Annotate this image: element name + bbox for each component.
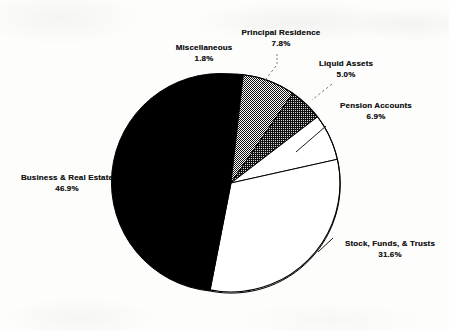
leader-line-liquid-assets (312, 84, 332, 100)
slice-label-business-real-estate: Business & Real Estate 46.9% (12, 172, 122, 194)
slice-label-principal-residence: Principal Residence 7.8% (228, 27, 334, 49)
pie-slices (111, 73, 340, 293)
slice-label-miscellaneous-percent: 1.8% (158, 53, 250, 64)
slice-label-stock-funds-trusts-name: Stock, Funds, & Trusts (345, 239, 435, 248)
slice-label-liquid-assets-percent: 5.0% (300, 69, 392, 80)
pie-slice-business-real-estate[interactable] (111, 73, 231, 291)
slice-label-business-real-estate-percent: 46.9% (12, 183, 122, 194)
slice-label-principal-residence-name: Principal Residence (242, 28, 321, 37)
slice-label-pension-accounts-name: Pension Accounts (340, 101, 412, 110)
slice-label-pension-accounts-percent: 6.9% (326, 111, 426, 122)
slice-label-principal-residence-percent: 7.8% (228, 38, 334, 49)
slice-label-stock-funds-trusts: Stock, Funds, & Trusts 31.6% (334, 238, 446, 260)
slice-label-stock-funds-trusts-percent: 31.6% (334, 249, 446, 260)
pie-chart-page: Miscellaneous 1.8% Principal Residence 7… (0, 0, 449, 331)
slice-label-liquid-assets-name: Liquid Assets (319, 59, 373, 68)
slice-label-business-real-estate-name: Business & Real Estate (21, 173, 113, 182)
slice-label-pension-accounts: Pension Accounts 6.9% (326, 100, 426, 122)
slice-label-liquid-assets: Liquid Assets 5.0% (300, 58, 392, 80)
slice-label-miscellaneous-name: Miscellaneous (176, 43, 233, 52)
